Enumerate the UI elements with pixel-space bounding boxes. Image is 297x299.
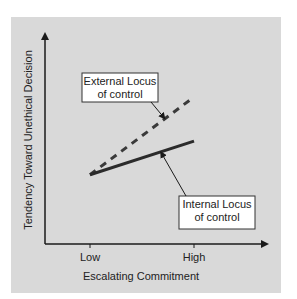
x-axis-label: Escalating Commitment xyxy=(83,270,199,282)
series-line-internal xyxy=(90,141,194,175)
callout-text: External Locus xyxy=(84,75,157,87)
callout-arrow xyxy=(161,152,186,196)
x-tick-label-low: Low xyxy=(80,251,100,263)
y-axis-label: Tendency Toward Unethical Decision xyxy=(22,50,34,230)
callout-external: External Locusof control xyxy=(82,73,165,119)
callout-internal: Internal Locusof control xyxy=(161,152,255,229)
callout-arrow xyxy=(151,102,165,119)
x-tick-label-high: High xyxy=(183,251,206,263)
callout-text: of control xyxy=(194,211,239,223)
callout-text: of control xyxy=(97,88,142,100)
callout-text: Internal Locus xyxy=(182,198,252,210)
series-line-external xyxy=(90,97,194,175)
chart: LowHigh Tendency Toward Unethical Decisi… xyxy=(0,0,297,299)
